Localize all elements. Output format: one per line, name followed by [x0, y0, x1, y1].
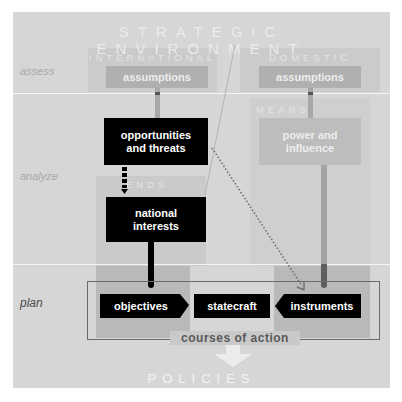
opportunities-to-national-dashed-arrow — [121, 167, 128, 194]
statecraft-box: statecraft — [194, 294, 270, 318]
policies-arrow-icon — [214, 345, 252, 367]
instruments-box: instruments — [283, 294, 361, 318]
policies-label: POLICIES — [13, 371, 390, 386]
objectives-box: objectives — [100, 294, 182, 318]
diagonal-thin-line — [205, 45, 235, 195]
objectives-label: objectives — [114, 300, 168, 313]
dotted-line-to-instruments — [212, 148, 302, 286]
courses-of-action-label: courses of action — [170, 331, 300, 345]
statecraft-label: statecraft — [207, 300, 257, 313]
instruments-label: instruments — [291, 300, 354, 313]
